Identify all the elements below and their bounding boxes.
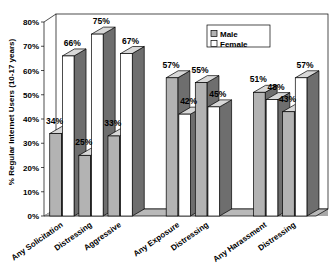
bar-female-2 — [121, 47, 145, 216]
value-label-female-0: 66% — [64, 38, 81, 48]
value-label-female-3: 42% — [180, 96, 197, 106]
value-label-male-3: 57% — [163, 60, 180, 70]
value-label-female-4: 45% — [209, 89, 226, 99]
value-label-male-5: 51% — [250, 74, 267, 84]
legend-swatch — [211, 31, 217, 37]
value-label-male-4: 55% — [192, 65, 209, 75]
value-label-female-2: 67% — [122, 36, 139, 46]
legend-label: Female — [220, 40, 248, 49]
y-tick-label: 30% — [23, 139, 39, 148]
value-label-female-6: 57% — [297, 60, 314, 70]
legend-swatch — [211, 41, 217, 47]
value-label-male-0: 34% — [46, 116, 63, 126]
y-axis-title: % Regular Internet Users (10-17 years) — [7, 39, 16, 186]
y-tick-label: 70% — [23, 42, 39, 51]
bar-chart: 0%10%20%30%40%50%60%70%80% % Regular Int… — [0, 0, 335, 278]
y-tick-label: 0% — [27, 212, 39, 221]
chart-legend[interactable]: MaleFemale — [207, 25, 270, 49]
y-tick-label: 80% — [23, 18, 39, 27]
value-label-male-1: 25% — [75, 137, 92, 147]
y-tick-label: 20% — [23, 164, 39, 173]
legend-label: Male — [220, 30, 238, 39]
value-label-male-6: 43% — [279, 94, 296, 104]
y-tick-label: 40% — [23, 115, 39, 124]
bar-female-6 — [295, 71, 319, 216]
y-tick-label: 60% — [23, 67, 39, 76]
value-label-male-2: 33% — [104, 118, 121, 128]
y-tick-label: 10% — [23, 188, 39, 197]
y-tick-label: 50% — [23, 91, 39, 100]
value-label-female-5: 48% — [267, 82, 284, 92]
value-label-female-1: 75% — [93, 16, 110, 26]
chart-canvas: 0%10%20%30%40%50%60%70%80% % Regular Int… — [0, 0, 335, 278]
bar-female-4 — [208, 100, 232, 216]
